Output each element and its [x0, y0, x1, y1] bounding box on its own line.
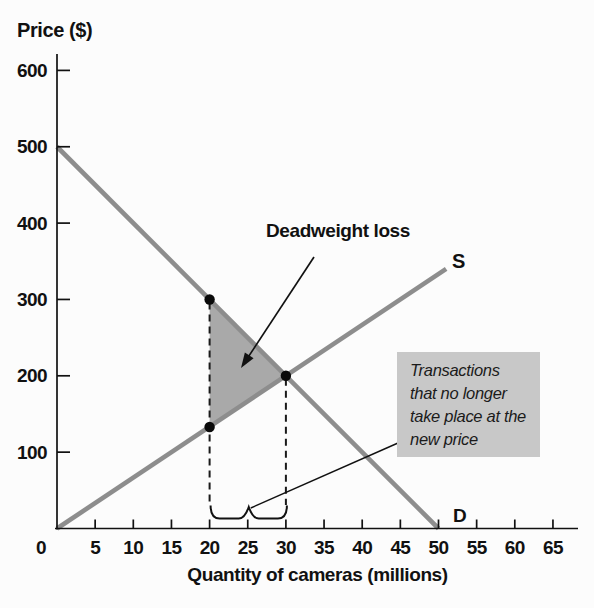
y-tick-label: 500	[17, 136, 47, 157]
x-tick-label: 25	[238, 537, 259, 558]
chart-canvas: 1002003004005006000510152025303540455055…	[0, 0, 594, 608]
x-tick-label: 40	[352, 537, 372, 558]
deadweight-loss-figure: 1002003004005006000510152025303540455055…	[0, 0, 594, 608]
x-tick-label: 30	[276, 537, 296, 558]
x-tick-label: 10	[123, 537, 143, 558]
transactions-callout: Transactions that no longer take place a…	[397, 352, 540, 457]
callout-text-line: new price	[410, 428, 534, 451]
callout-text-line: that no longer	[410, 382, 534, 405]
x-tick-label: 0	[36, 537, 46, 558]
x-tick-label: 65	[543, 537, 564, 558]
demand-curve	[57, 147, 439, 529]
point-marker	[204, 294, 214, 304]
callout-text-line: take place at the	[410, 405, 534, 428]
supply-curve-label: S	[452, 250, 465, 273]
x-tick-label: 5	[90, 537, 101, 558]
x-tick-label: 60	[505, 537, 525, 558]
demand-curve-label: D	[453, 505, 467, 527]
y-tick-label: 200	[17, 365, 47, 386]
x-tick-label: 20	[200, 537, 220, 558]
x-tick-label: 15	[161, 537, 182, 558]
point-marker	[204, 422, 214, 432]
callout-text-line: Transactions	[410, 359, 534, 382]
supply-curve	[57, 269, 446, 529]
point-marker	[281, 371, 291, 381]
x-tick-label: 55	[467, 537, 488, 558]
x-tick-label: 45	[390, 537, 411, 558]
x-tick-label: 50	[429, 537, 449, 558]
y-axis-title: Price ($)	[17, 19, 92, 42]
x-axis-title: Quantity of cameras (millions)	[57, 564, 578, 586]
y-tick-label: 400	[17, 213, 47, 234]
deadweight-arrow-line	[248, 257, 314, 357]
x-tick-label: 35	[314, 537, 335, 558]
y-tick-label: 100	[17, 442, 47, 463]
y-tick-label: 300	[17, 289, 47, 310]
y-tick-label: 600	[17, 60, 47, 81]
quantity-brace	[211, 506, 287, 519]
callout-leader-line	[251, 443, 398, 508]
deadweight-loss-label: Deadweight loss	[266, 220, 410, 242]
